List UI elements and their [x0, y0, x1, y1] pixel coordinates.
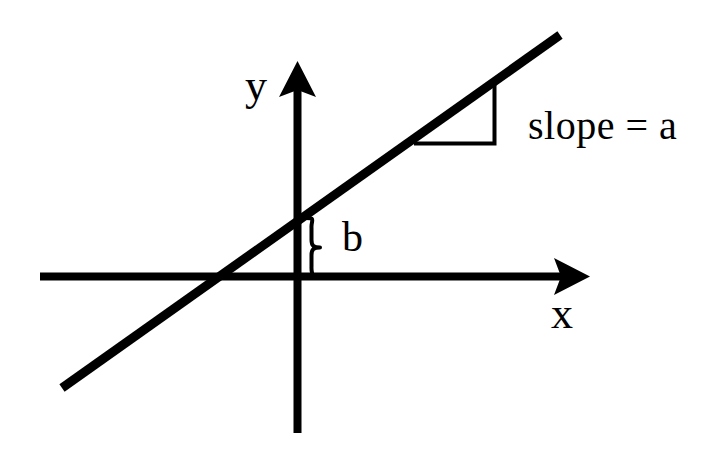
linear-function-diagram: [0, 0, 727, 451]
figure-canvas: y x b slope = a: [0, 0, 727, 451]
slope-label: slope = a: [528, 106, 677, 146]
curly-brace-icon: [306, 218, 320, 277]
intercept-label: b: [342, 216, 363, 258]
right-triangle-icon: [416, 87, 495, 144]
y-axis-label: y: [245, 64, 267, 108]
x-axis-label: x: [551, 292, 573, 336]
